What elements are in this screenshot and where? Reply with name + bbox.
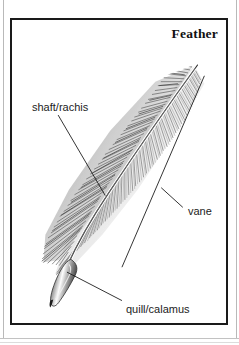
page-edge-bottom [0, 338, 239, 339]
page: Feather [0, 0, 239, 345]
feather-illustration [12, 20, 226, 323]
page-edge-bottom-secondary [0, 342, 239, 343]
leader-vane-tick [161, 188, 183, 208]
illustration-plate: Feather [10, 18, 228, 325]
label-quill-calamus: quill/calamus [126, 304, 190, 315]
label-vane: vane [188, 206, 212, 217]
label-shaft-rachis: shaft/rachis [32, 102, 88, 113]
leader-quill [67, 272, 122, 300]
feather-barbs-upper [40, 64, 191, 273]
page-edge-left [3, 0, 4, 339]
page-edge-right [236, 0, 237, 339]
feather-quill [50, 259, 77, 307]
